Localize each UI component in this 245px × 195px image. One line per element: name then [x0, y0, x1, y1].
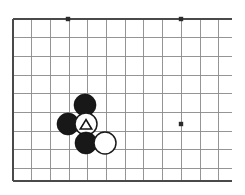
grid-horizontal-lines [13, 19, 232, 169]
white-stone [75, 113, 97, 135]
grid-vertical-lines [13, 19, 219, 181]
star-point-upper-right [179, 17, 183, 21]
white-stone-right [94, 132, 116, 154]
go-board-canvas [0, 0, 245, 195]
star-point-upper-left [66, 17, 70, 21]
go-board-diagram [0, 0, 245, 195]
board-edge-lines [13, 19, 232, 181]
stones-group [57, 94, 116, 154]
star-point-middle-right [179, 122, 183, 126]
white-stone [94, 132, 116, 154]
white-stone-marked [75, 113, 97, 135]
